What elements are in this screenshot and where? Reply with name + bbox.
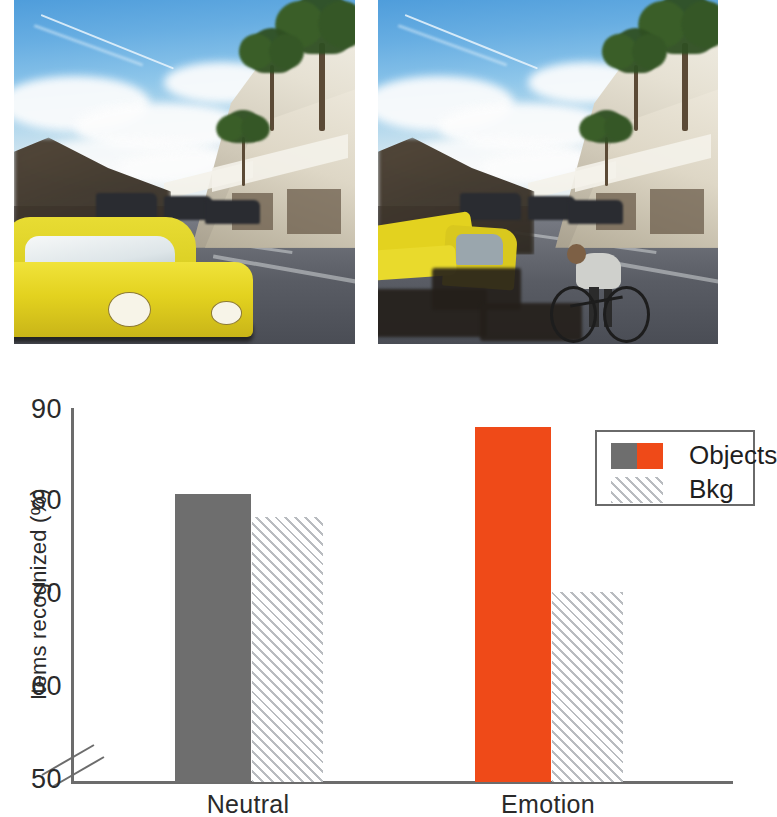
bar-bkg-neutral[interactable]: [252, 517, 323, 782]
y-tick-50: 50: [8, 766, 62, 793]
y-tick-70: 70: [8, 580, 62, 607]
legend-entry-objects[interactable]: Objects: [611, 440, 777, 471]
palm-tree: [219, 110, 267, 186]
shop-front: [287, 189, 342, 234]
x-label-neutral: Neutral: [168, 790, 328, 817]
bar-objects-emotion[interactable]: [475, 427, 551, 782]
stimulus-image-neutral: [14, 0, 355, 344]
bar-objects-neutral[interactable]: [175, 494, 251, 782]
legend-swatch-bkg: [611, 477, 663, 503]
shop-front: [650, 189, 704, 234]
chart-legend: Objects Bkg: [595, 430, 755, 506]
x-label-emotion: Emotion: [468, 790, 628, 817]
y-axis-line: [71, 408, 74, 783]
x-axis-line: [71, 781, 733, 784]
y-tick-90: 90: [8, 396, 62, 423]
legend-label-bkg: Bkg: [689, 474, 734, 505]
legend-entry-bkg[interactable]: Bkg: [611, 474, 734, 505]
bar-chart: Items recognized (%) 90 80 70 60 50 Neut…: [0, 380, 743, 806]
bar-bkg-emotion[interactable]: [552, 592, 623, 782]
y-tick-80: 80: [8, 487, 62, 514]
parked-car: [568, 200, 622, 224]
bicycle: [548, 275, 650, 344]
legend-swatch-objects: [611, 443, 663, 469]
palm-tree: [582, 110, 630, 186]
stimulus-image-emotional: [378, 0, 718, 344]
yellow-car-intact: [14, 217, 253, 337]
legend-label-objects: Objects: [689, 440, 777, 471]
y-tick-60: 60: [8, 673, 62, 700]
